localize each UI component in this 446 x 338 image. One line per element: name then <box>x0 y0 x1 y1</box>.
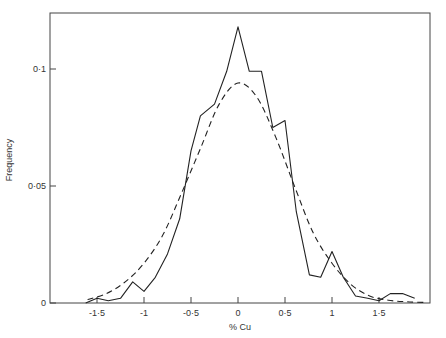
x-axis-title: % Cu <box>229 322 251 332</box>
frequency-chart: 00·050·1 -1·5-1-0·500·511·5 % Cu Frequen… <box>0 0 446 338</box>
x-tick-label: 0·5 <box>278 308 291 318</box>
x-tick-label: 0 <box>235 308 240 318</box>
x-tick-label: -0·5 <box>183 308 199 318</box>
y-axis-ticks: 00·050·1 <box>28 64 56 308</box>
x-axis-ticks: -1·5-1-0·500·511·5 <box>89 297 386 318</box>
y-tick-label: 0 <box>41 298 46 308</box>
observed-frequency-line <box>86 27 415 303</box>
plot-frame <box>50 13 430 303</box>
normal-fit-curve <box>88 83 426 303</box>
y-tick-label: 0·1 <box>33 64 46 74</box>
y-tick-label: 0·05 <box>28 181 46 191</box>
x-tick-label: 1·5 <box>372 308 385 318</box>
x-tick-label: -1·5 <box>89 308 105 318</box>
x-tick-label: -1 <box>140 308 148 318</box>
y-axis-title: Frequency <box>4 138 14 181</box>
x-tick-label: 1 <box>329 308 334 318</box>
